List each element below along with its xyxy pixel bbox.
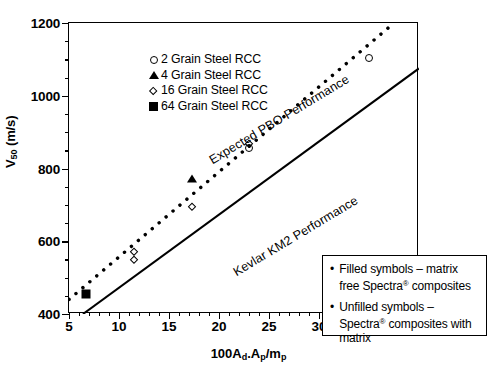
legend-label: 4 Grain Steel RCC (161, 68, 261, 84)
circle-open-marker-icon (365, 54, 373, 62)
note-text: Unfilled symbols – Spectra® composites w… (339, 300, 480, 346)
legend-item-2: 16 Grain Steel RCC (147, 83, 268, 99)
x-tick-major (269, 312, 270, 319)
x-tick-minor (199, 312, 200, 316)
registered-trademark-icon: ® (403, 279, 409, 288)
legend-label: 16 Grain Steel RCC (161, 83, 268, 99)
square-filled-marker-icon (82, 289, 91, 298)
data-point (187, 174, 197, 182)
note-item-0: •Filled symbols – matrix free Spectra® c… (330, 262, 480, 293)
y-tick-minor (65, 278, 69, 279)
diamond-open-marker-icon (129, 256, 138, 265)
x-tick-minor (89, 312, 90, 316)
triangle-filled-marker-icon (187, 174, 197, 182)
y-tick-label: 600 (38, 234, 60, 249)
legend-symbol (147, 102, 160, 111)
x-tick-minor (279, 312, 280, 316)
x-tick-minor (129, 312, 130, 316)
legend: 2 Grain Steel RCC4 Grain Steel RCC16 Gra… (147, 52, 268, 114)
x-tick-minor (109, 312, 110, 316)
x-axis-title-sub-mp: p (281, 352, 287, 362)
x-tick-major (69, 312, 70, 319)
x-tick-label: 10 (111, 319, 126, 334)
y-tick-minor (65, 259, 69, 260)
x-tick-minor (309, 312, 310, 316)
x-tick-minor (299, 312, 300, 316)
x-tick-minor (229, 312, 230, 316)
x-tick-minor (239, 312, 240, 316)
y-axis-title-prefix: V (3, 159, 18, 168)
y-tick-label: 400 (38, 307, 60, 322)
x-tick-label: 25 (261, 319, 276, 334)
data-point (131, 249, 137, 255)
plot-area: 40060080010001200510152025303540 Expecte… (68, 22, 418, 313)
legend-label: 2 Grain Steel RCC (161, 52, 261, 68)
x-axis-title-slash: /m (266, 346, 281, 361)
data-point (131, 257, 137, 263)
data-point (82, 289, 91, 298)
data-point (189, 203, 195, 209)
x-tick-label: 20 (211, 319, 226, 334)
note-bullet-icon: • (330, 262, 334, 293)
y-tick-minor (65, 132, 69, 133)
circle-open-marker-icon (150, 56, 158, 64)
x-tick-major (219, 312, 220, 319)
x-tick-major (319, 312, 320, 319)
square-filled-marker-icon (149, 102, 158, 111)
y-tick-minor (65, 59, 69, 60)
y-tick-major (62, 241, 69, 242)
x-tick-minor (79, 312, 80, 316)
note-box: •Filled symbols – matrix free Spectra® c… (322, 255, 487, 336)
x-tick-minor (289, 312, 290, 316)
y-tick-major (62, 96, 69, 97)
x-tick-major (119, 312, 120, 319)
y-tick-minor (65, 205, 69, 206)
x-tick-minor (149, 312, 150, 316)
x-axis-title-prefix: 100A (211, 346, 242, 361)
x-tick-minor (249, 312, 250, 316)
legend-item-1: 4 Grain Steel RCC (147, 68, 268, 84)
y-tick-minor (65, 187, 69, 188)
registered-trademark-icon: ® (380, 317, 386, 326)
x-tick-label: 15 (161, 319, 176, 334)
diamond-open-marker-icon (187, 202, 196, 211)
legend-item-3: 64 Grain Steel RCC (147, 99, 268, 115)
y-tick-minor (65, 150, 69, 151)
diamond-open-marker-icon (149, 86, 158, 95)
legend-symbol (147, 71, 160, 79)
x-axis-title-mid: .A (247, 346, 260, 361)
x-tick-minor (179, 312, 180, 316)
legend-item-0: 2 Grain Steel RCC (147, 52, 268, 68)
legend-symbol (147, 56, 160, 64)
triangle-filled-marker-icon (149, 71, 159, 79)
x-tick-minor (259, 312, 260, 316)
y-axis-title-sub: 50 (9, 150, 19, 160)
y-tick-minor (65, 41, 69, 42)
x-tick-minor (139, 312, 140, 316)
x-tick-minor (159, 312, 160, 316)
y-tick-major (62, 314, 69, 315)
x-tick-minor (99, 312, 100, 316)
x-tick-label: 5 (65, 319, 73, 334)
y-tick-minor (65, 114, 69, 115)
y-axis-title: V50 (m/s) (3, 116, 19, 168)
x-tick-minor (189, 312, 190, 316)
y-tick-major (62, 169, 69, 170)
y-tick-label: 1200 (31, 16, 60, 31)
legend-symbol (147, 88, 160, 94)
legend-label: 64 Grain Steel RCC (161, 99, 268, 115)
y-tick-minor (65, 223, 69, 224)
y-tick-minor (65, 296, 69, 297)
note-text: Filled symbols – matrix free Spectra® co… (339, 262, 480, 293)
y-tick-minor (65, 78, 69, 79)
note-bullet-icon: • (330, 300, 334, 346)
data-point (365, 54, 373, 62)
x-axis-title: 100Ad.Ap/mp (0, 346, 457, 362)
x-tick-major (169, 312, 170, 319)
y-tick-major (62, 23, 69, 24)
x-tick-minor (209, 312, 210, 316)
y-tick-label: 1000 (31, 88, 60, 103)
y-axis-title-suffix: (m/s) (3, 116, 18, 150)
y-tick-label: 800 (38, 161, 60, 176)
